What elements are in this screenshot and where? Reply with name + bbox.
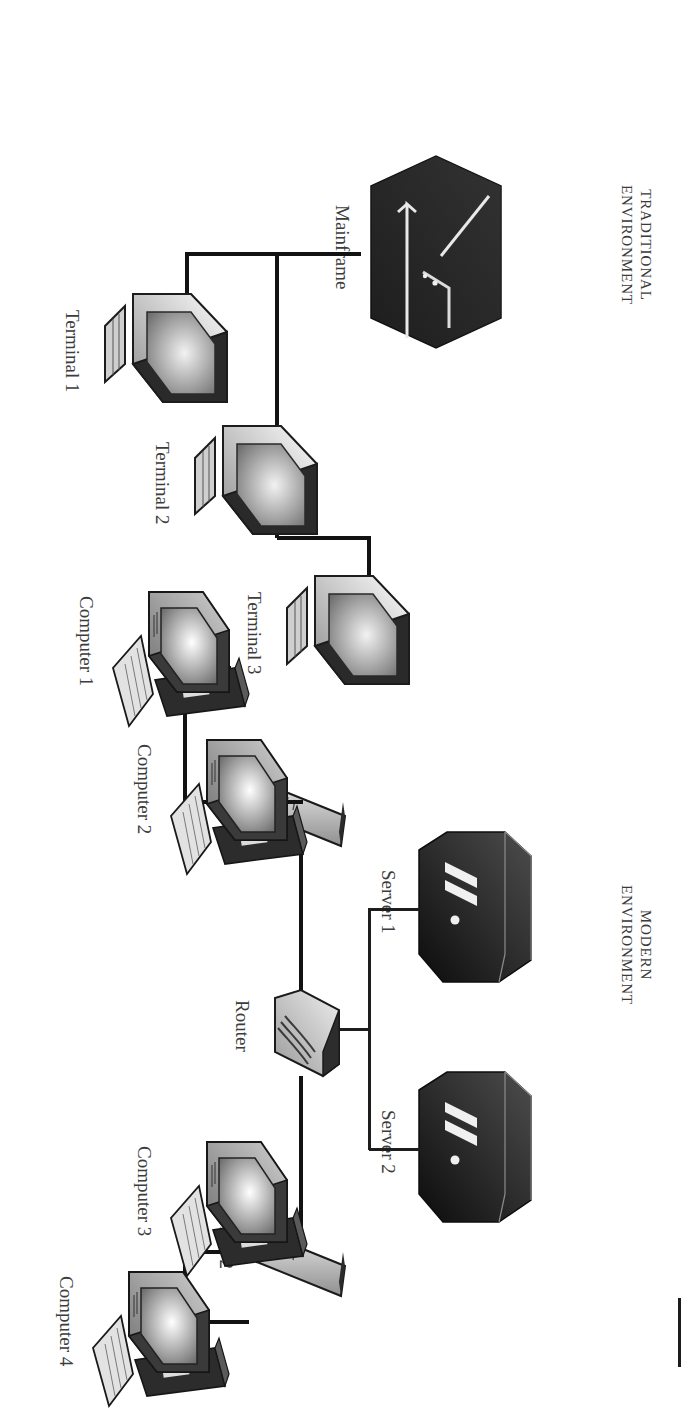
computer3-label: Computer 3 [133,1146,155,1236]
computer-icon [161,724,311,892]
server-icon [409,1068,539,1228]
link-server1-drop [369,908,421,911]
link-mainframe-trunk [277,252,361,256]
computer-icon [83,1256,233,1412]
computer1-label: Computer 1 [75,596,97,686]
computer2-label: Computer 2 [133,744,155,834]
modern-header: MODERN ENVIRONMENT [618,820,656,1070]
terminal-icon [87,286,237,436]
mainframe-icon [361,152,511,352]
terminal-icon [177,418,327,568]
computer-icon [103,576,253,744]
server2-label: Server 2 [377,1110,399,1174]
link-to-terminal1 [187,252,279,256]
router-label: Router [231,1000,253,1052]
page-edge-rule [678,1298,681,1367]
terminal2-label: Terminal 2 [151,442,173,525]
terminal-icon [269,568,419,718]
link-server2-drop [369,1148,421,1151]
router-icon [259,986,345,1082]
mainframe-label: Mainframe [331,205,353,289]
computer4-label: Computer 4 [55,1276,77,1366]
traditional-header: TRADITIONAL ENVIRONMENT [618,120,656,370]
server1-label: Server 1 [377,870,399,934]
terminal1-label: Terminal 1 [61,310,83,393]
server-icon [409,828,539,988]
